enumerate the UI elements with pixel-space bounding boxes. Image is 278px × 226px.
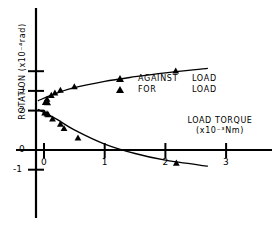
data-point-s1-6 (75, 134, 82, 140)
legend-label-against: AGAINST (138, 74, 192, 83)
data-point-s0-7 (172, 67, 179, 73)
y-tick-label-2: 2 (19, 105, 25, 115)
x-tick-label-1: 1 (102, 157, 108, 167)
y-tick-label-1: 0 (19, 144, 25, 154)
triangle-marker-icon (116, 75, 124, 82)
axes-group (16, 8, 272, 218)
x-tick-label-3: 3 (223, 157, 229, 167)
legend-label-load-1: LOAD (192, 74, 217, 83)
data-point-s0-5 (57, 87, 64, 93)
x-tick-label-0: 0 (41, 157, 47, 167)
data-point-s0-6 (71, 83, 78, 89)
y-tick-label-0: -1 (13, 164, 22, 174)
legend-entry-against-load: AGAINST LOAD (116, 74, 217, 83)
legend-label-load-2: LOAD (192, 85, 217, 94)
x-tick-label-2: 2 (162, 157, 168, 167)
x-axis-title: LOAD TORQUE (x10⁻³Nm) (172, 116, 268, 136)
x-axis-title-text: LOAD TORQUE (172, 116, 268, 126)
legend-entry-for-load: FOR LOAD (116, 85, 217, 94)
triangle-marker-icon (116, 86, 124, 93)
rotation-vs-load-torque-chart: ROTATION (x10⁻⁴rad) LOAD TORQUE (x10⁻³Nm… (0, 0, 278, 226)
x-axis-units-text: (x10⁻³Nm) (172, 126, 268, 136)
y-tick-label-3: 3 (19, 85, 25, 95)
legend-label-for: FOR (138, 85, 192, 94)
plot-area (0, 0, 278, 226)
